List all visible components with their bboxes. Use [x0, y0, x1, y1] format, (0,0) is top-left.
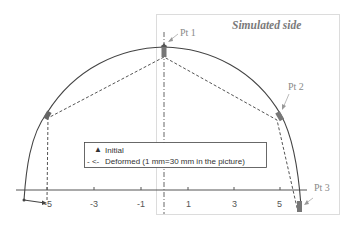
pt3-label: Pt 3 [314, 182, 330, 193]
tick-label: -1 [137, 199, 145, 209]
pt2-label: Pt 2 [288, 81, 304, 92]
initial-curve [24, 47, 301, 206]
tick-label: -3 [90, 199, 98, 209]
legend: ▲ Initial - <- Deformed (1 mm=30 mm in t… [85, 143, 267, 168]
simulated-side-title: Simulated side [232, 19, 301, 31]
tick-label: 5 [277, 199, 282, 209]
legend-deformed-label: Deformed (1 mm=30 mm in the picture) [105, 157, 245, 166]
point-marker-left [43, 111, 51, 120]
tick-label: 3 [232, 199, 237, 209]
legend-initial-marker-icon: ▲ [94, 145, 102, 154]
pt1-label: Pt 1 [180, 27, 196, 38]
tick-label: -5 [44, 199, 52, 209]
simulated-side-box [157, 15, 340, 215]
point-marker-3 [297, 201, 302, 212]
displacement-arrow [24, 200, 45, 203]
legend-deformed-marker-icon: - <- [87, 157, 100, 166]
deformation-diagram: Simulated side -5 -3 -1 1 3 5 Pt 1 Pt [0, 0, 353, 225]
point-marker-1 [161, 43, 167, 57]
deformed-curve [47, 57, 298, 212]
tick-label: 1 [186, 199, 191, 209]
legend-initial-label: Initial [105, 146, 124, 155]
